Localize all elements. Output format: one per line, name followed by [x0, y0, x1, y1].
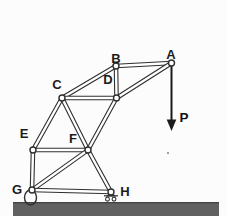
truss-svg [0, 0, 226, 216]
member-FG-inner [32, 150, 88, 190]
joint-h [108, 189, 114, 195]
member-FH-inner [88, 150, 111, 192]
speck-dot [167, 152, 169, 154]
joint-label-g: G [12, 183, 22, 196]
joint-label-h: H [120, 185, 129, 198]
ground [13, 202, 219, 216]
member-BD-inner [116, 66, 117, 98]
joint-label-a: A [166, 48, 175, 61]
truss-diagram: A B C D E F G H P [0, 0, 226, 216]
load-arrow-head-icon [167, 120, 177, 132]
joint-label-c: C [52, 78, 61, 91]
joint-label-d: D [103, 73, 112, 86]
joint-d [114, 95, 120, 101]
member-DF-inner [88, 98, 117, 150]
joint-label-f: F [69, 132, 77, 145]
member-EG-inner [32, 150, 33, 190]
member-AD-inner [117, 63, 172, 98]
joint-e [30, 147, 36, 153]
joint-label-b: B [111, 52, 120, 65]
support-h-roller-icon-2 [112, 197, 116, 201]
load-label-p: P [179, 111, 188, 125]
joint-g [29, 187, 35, 193]
joint-f [85, 147, 91, 153]
member-CE-inner [33, 98, 62, 150]
support-h-roller-icon-1 [106, 197, 110, 201]
ground-top-edge [13, 202, 219, 203]
joint-c [59, 95, 65, 101]
joint-label-e: E [20, 127, 29, 140]
